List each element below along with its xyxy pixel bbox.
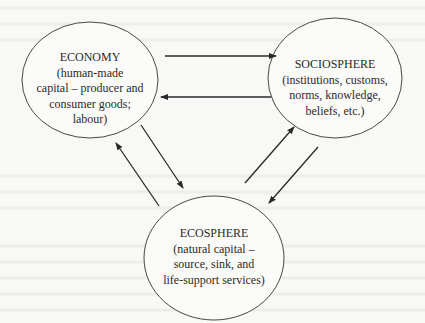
sociosphere-desc-line: beliefs, etc.) <box>268 104 402 120</box>
ecosphere-desc-line: (natural capital – <box>146 242 282 258</box>
economy-node: ECONOMY (human-made capital – producer a… <box>22 50 158 128</box>
sociosphere-node: SOCIOSPHERE (institutions, customs, norm… <box>268 57 402 119</box>
ecosphere-title: ECOSPHERE <box>146 226 282 242</box>
sociosphere-desc-line: (institutions, customs, <box>268 73 402 89</box>
economy-title: ECONOMY <box>22 50 158 66</box>
economy-desc-line: capital – producer and <box>22 81 158 97</box>
ecosphere-desc-line: life-support services) <box>146 273 282 289</box>
economy-desc-line: consumer goods; <box>22 97 158 113</box>
sociosphere-title: SOCIOSPHERE <box>268 57 402 73</box>
economy-desc-line: (human-made <box>22 66 158 82</box>
ecosphere-node: ECOSPHERE (natural capital – source, sin… <box>146 226 282 288</box>
economy-desc-line: labour) <box>22 112 158 128</box>
sociosphere-desc-line: norms, knowledge, <box>268 88 402 104</box>
ecosphere-desc-line: source, sink, and <box>146 257 282 273</box>
arrow-economy-to-ecosphere <box>141 125 183 188</box>
diagram-canvas: ECONOMY (human-made capital – producer a… <box>0 0 425 323</box>
